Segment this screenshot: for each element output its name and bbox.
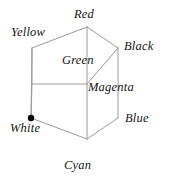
vertex-label-red: Red [74,8,94,21]
edge-blue-cyan [87,118,118,139]
vertex-label-cyan: Cyan [64,159,91,172]
vertex-label-yellow: Yellow [11,26,45,39]
vertex-label-blue: Blue [125,112,149,125]
vertex-label-magenta: Magenta [88,81,134,94]
edge-red-black [87,27,118,48]
color-cube-figure: Red Yellow Black Green Magenta White Blu… [0,0,175,181]
vertex-label-white: White [10,122,40,135]
vertex-label-black: Black [124,40,153,53]
vertex-label-green: Green [62,54,94,67]
